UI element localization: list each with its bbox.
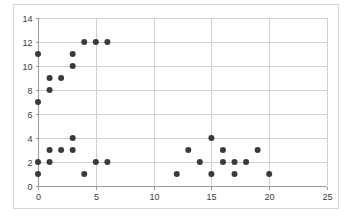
- data-point: [47, 159, 53, 165]
- data-point: [208, 135, 214, 141]
- y-tick-label: 0: [27, 182, 32, 192]
- data-point: [47, 147, 53, 153]
- data-point: [81, 171, 87, 177]
- data-point: [70, 147, 76, 153]
- data-point: [185, 147, 191, 153]
- data-point: [47, 75, 53, 81]
- y-tick-label: 12: [22, 38, 32, 48]
- y-tick-label: 10: [22, 62, 32, 72]
- data-point: [70, 135, 76, 141]
- y-tick-label: 8: [27, 86, 32, 96]
- y-tick-label: 2: [27, 158, 32, 168]
- data-point: [93, 39, 99, 45]
- data-point: [174, 171, 180, 177]
- scatter-plot: 024681012140510152025: [14, 5, 338, 208]
- data-point: [197, 159, 203, 165]
- x-tick-label: 15: [206, 192, 216, 202]
- data-point: [232, 171, 238, 177]
- data-point: [104, 159, 110, 165]
- data-point: [232, 159, 238, 165]
- data-point: [220, 159, 226, 165]
- chart-frame: 024681012140510152025: [13, 4, 339, 209]
- data-point: [35, 171, 41, 177]
- x-tick-label: 20: [264, 192, 274, 202]
- y-tick-label: 4: [27, 134, 32, 144]
- data-point: [93, 159, 99, 165]
- data-point: [58, 75, 64, 81]
- data-point: [58, 147, 64, 153]
- data-point: [266, 171, 272, 177]
- data-point: [208, 171, 214, 177]
- data-point: [35, 99, 41, 105]
- data-point: [220, 147, 226, 153]
- data-point: [243, 159, 249, 165]
- data-point: [81, 39, 87, 45]
- data-point: [35, 159, 41, 165]
- x-tick-label: 5: [94, 192, 99, 202]
- data-point: [255, 147, 261, 153]
- data-point: [47, 87, 53, 93]
- x-tick-label: 10: [149, 192, 159, 202]
- y-tick-label: 14: [22, 14, 32, 24]
- y-tick-label: 6: [27, 110, 32, 120]
- data-point: [70, 63, 76, 69]
- x-tick-label: 25: [322, 192, 332, 202]
- data-point: [104, 39, 110, 45]
- data-point: [70, 51, 76, 57]
- x-tick-label: 0: [36, 192, 41, 202]
- data-point: [35, 51, 41, 57]
